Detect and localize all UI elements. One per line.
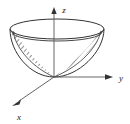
arrow-up-icon — [51, 7, 56, 14]
figure-canvas: z y x — [0, 0, 130, 124]
z-axis-label: z — [61, 5, 66, 15]
paraboloid-surface — [0, 0, 130, 124]
paraboloid-figure: z y x — [0, 0, 130, 124]
x-axis-label: x — [16, 112, 21, 122]
y-axis-label: y — [118, 73, 123, 83]
x-axis-line — [19, 77, 54, 101]
arrow-right-icon — [105, 74, 113, 79]
